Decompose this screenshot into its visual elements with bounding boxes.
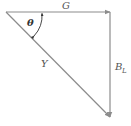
angle-arc (34, 14, 42, 37)
label-theta: θ (27, 17, 34, 28)
label-b-subscript: L (121, 67, 127, 75)
label-g: G (62, 0, 70, 11)
label-y: Y (41, 58, 49, 69)
y-vector-line (6, 12, 110, 117)
admittance-triangle-diagram: G Y B L θ (0, 0, 131, 126)
